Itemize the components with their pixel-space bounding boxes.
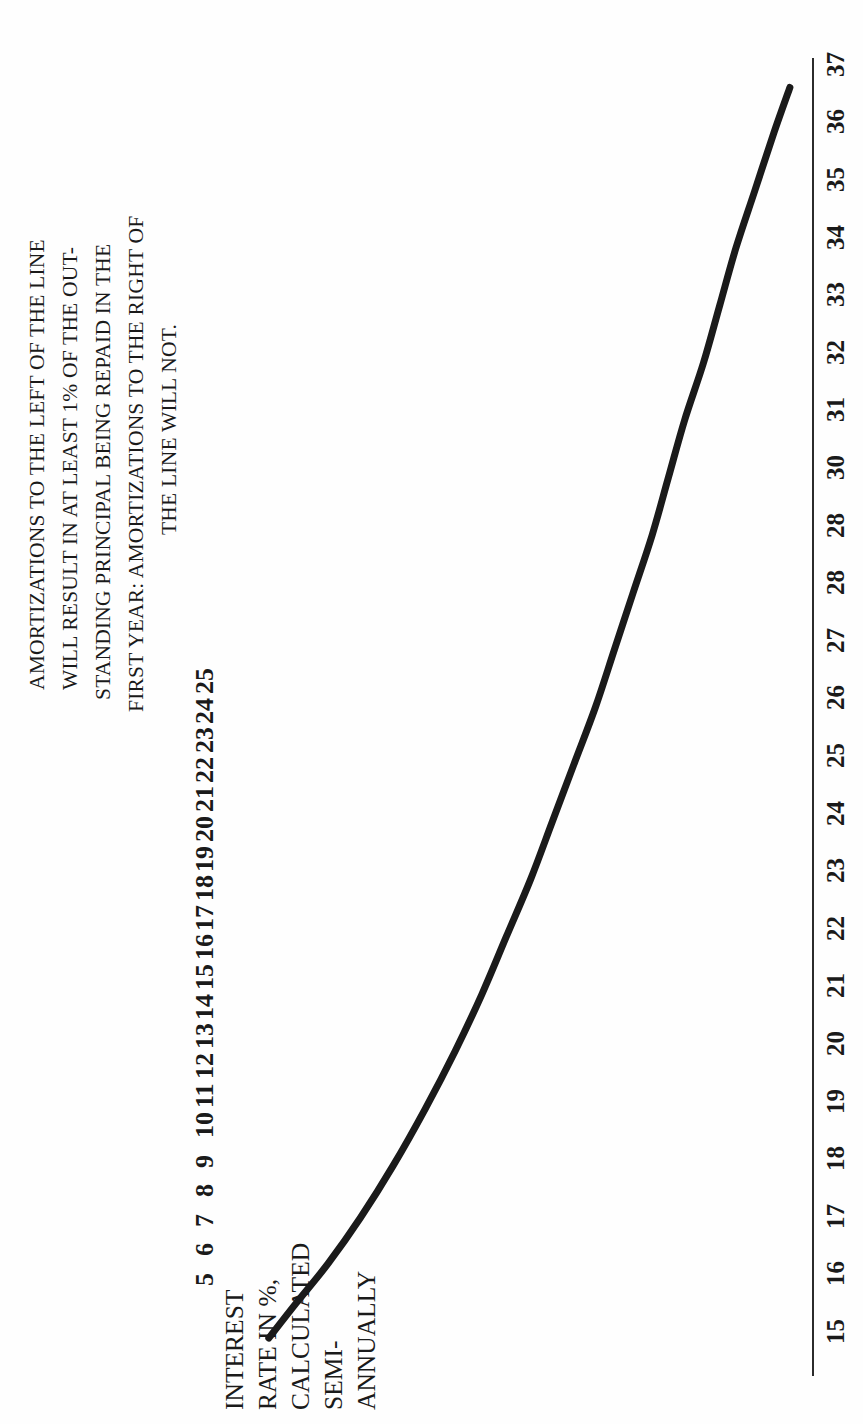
- threshold-curve: [269, 87, 790, 1338]
- chart-plot-area: [0, 0, 863, 1424]
- figure-canvas: AMORTIZATIONS TO THE LEFT OF THE LINE WI…: [0, 0, 863, 1424]
